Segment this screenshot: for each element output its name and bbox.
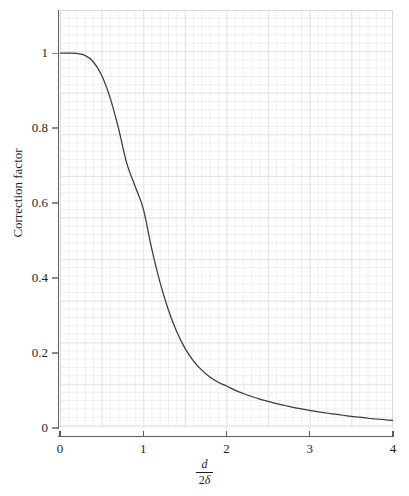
x-axis-tick: [59, 431, 60, 437]
x-axis-tick-label: 2: [212, 441, 242, 456]
x-axis-tick-label: 3: [295, 441, 325, 456]
y-axis-tick: [52, 352, 58, 353]
fraction-numerator: d: [198, 458, 210, 471]
x-axis-tick-label: 0: [45, 441, 75, 456]
y-axis-line: [58, 10, 59, 429]
x-axis-fraction: d 2δ: [196, 458, 214, 486]
x-axis-tick: [226, 431, 227, 437]
x-axis-tick: [392, 431, 393, 437]
y-axis-tick: [52, 427, 58, 428]
plot-area: [60, 10, 393, 428]
x-axis-tick: [143, 431, 144, 437]
y-axis-title: Correction factor: [10, 128, 26, 258]
y-axis-tick: [52, 127, 58, 128]
y-axis-tick: [52, 202, 58, 203]
correction-factor-curve: [60, 53, 393, 420]
data-curve-svg: [60, 10, 393, 428]
x-axis-tick-label: 1: [128, 441, 158, 456]
x-axis-tick-label: 4: [378, 441, 408, 456]
y-axis-tick: [52, 53, 58, 54]
y-axis-tick-label: 0.4: [8, 271, 48, 285]
chart-figure: 0123400.20.40.60.81 Correction factor d …: [0, 0, 409, 496]
y-axis-tick-label: 0.2: [8, 346, 48, 360]
x-axis-title: d 2δ: [0, 458, 409, 486]
fraction-denominator-symbol: δ: [205, 473, 211, 487]
y-axis-tick: [52, 277, 58, 278]
y-axis-tick-label: 1: [8, 46, 48, 60]
y-axis-tick-label: 0: [8, 421, 48, 435]
fraction-denominator: 2δ: [196, 474, 214, 487]
x-axis-tick: [309, 431, 310, 437]
